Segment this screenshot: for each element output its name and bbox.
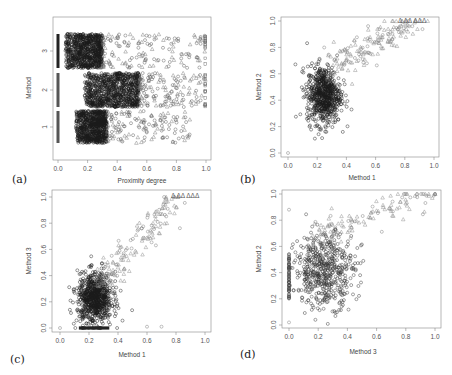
svg-text:3: 3	[41, 49, 48, 53]
svg-text:0.4: 0.4	[113, 165, 122, 172]
svg-text:0.4: 0.4	[113, 337, 122, 344]
svg-text:0.6: 0.6	[270, 242, 277, 251]
svg-text:0.8: 0.8	[401, 333, 410, 340]
svg-text:1.0: 1.0	[40, 192, 47, 201]
panel-d: 0.00.20.40.60.81.00.00.20.40.60.81.0 Met…	[240, 189, 441, 361]
panel-a-points	[57, 32, 208, 144]
svg-text:0.8: 0.8	[269, 43, 276, 52]
svg-text:0.4: 0.4	[343, 333, 352, 340]
svg-text:0.0: 0.0	[40, 323, 47, 332]
svg-text:0.0: 0.0	[283, 162, 292, 169]
svg-text:0.2: 0.2	[270, 294, 277, 303]
panel-a-tag: (a)	[12, 173, 27, 186]
svg-text:0.0: 0.0	[269, 148, 276, 157]
svg-text:0.6: 0.6	[371, 162, 380, 169]
panel-b-ylabel: Method 2	[255, 73, 262, 100]
panel-c-annotation: Δ ΔΔ ΔΔΔ	[171, 192, 200, 199]
svg-text:1.0: 1.0	[200, 337, 209, 344]
svg-text:0.6: 0.6	[40, 245, 47, 254]
svg-text:0.0: 0.0	[53, 165, 62, 172]
svg-text:1.0: 1.0	[430, 333, 439, 340]
svg-text:0.8: 0.8	[40, 218, 47, 227]
panel-b: 0.00.20.40.60.81.00.00.20.40.60.81.0 Δ Δ…	[240, 16, 439, 186]
svg-text:0.2: 0.2	[40, 297, 47, 306]
svg-text:1.0: 1.0	[429, 162, 438, 169]
svg-text:0.4: 0.4	[342, 162, 351, 169]
svg-text:0.6: 0.6	[269, 69, 276, 78]
svg-text:0.0: 0.0	[55, 337, 64, 344]
svg-text:0.2: 0.2	[84, 337, 93, 344]
svg-text:0.8: 0.8	[270, 215, 277, 224]
svg-text:1.0: 1.0	[270, 189, 277, 198]
panel-c: 0.00.20.40.60.81.00.00.20.40.60.81.0 Δ Δ…	[10, 190, 211, 366]
panel-b-frame	[281, 17, 439, 157]
svg-text:0.6: 0.6	[142, 165, 151, 172]
svg-text:0.4: 0.4	[269, 95, 276, 104]
svg-text:0.4: 0.4	[40, 271, 47, 280]
panel-d-ylabel: Method 2	[255, 245, 262, 272]
panel-d-frame	[282, 190, 441, 328]
panel-c-points	[59, 195, 187, 329]
svg-text:0.0: 0.0	[270, 320, 277, 329]
panel-a: 0.00.20.40.60.81.0123 Proximity degree M…	[12, 17, 211, 186]
svg-text:1: 1	[41, 125, 48, 129]
svg-text:0.2: 0.2	[313, 162, 322, 169]
svg-text:0.2: 0.2	[269, 122, 276, 131]
figure-canvas: 0.00.20.40.60.81.0123 Proximity degree M…	[0, 0, 452, 375]
panel-a-xlabel: Proximity degree	[118, 177, 167, 185]
svg-text:0.8: 0.8	[171, 337, 180, 344]
svg-text:0.2: 0.2	[83, 165, 92, 172]
panel-b-points	[287, 19, 430, 154]
panel-d-axes: 0.00.20.40.60.81.00.00.20.40.60.81.0	[270, 189, 440, 340]
panel-d-tag: (d)	[240, 348, 256, 361]
panel-c-tag: (c)	[10, 353, 25, 366]
panel-c-xlabel: Method 1	[118, 351, 145, 358]
svg-text:0.8: 0.8	[172, 165, 181, 172]
svg-text:0.2: 0.2	[314, 333, 323, 340]
svg-text:1.0: 1.0	[269, 16, 276, 25]
panel-b-tag: (b)	[240, 173, 256, 186]
svg-text:2: 2	[41, 88, 48, 92]
svg-text:0.6: 0.6	[142, 337, 151, 344]
panel-b-xlabel: Method 1	[348, 174, 375, 181]
panel-c-ylabel: Method 3	[25, 247, 32, 274]
svg-text:0.4: 0.4	[270, 268, 277, 277]
panel-b-annotation: Δ ΔΔ ΔΔΔ	[398, 17, 427, 24]
svg-text:1.0: 1.0	[201, 165, 210, 172]
panel-d-xlabel: Method 3	[349, 348, 376, 355]
svg-text:0.0: 0.0	[284, 333, 293, 340]
svg-text:0.8: 0.8	[400, 162, 409, 169]
panel-d-points	[288, 192, 437, 325]
panel-a-ylabel: Method	[25, 77, 32, 99]
svg-text:0.6: 0.6	[372, 333, 381, 340]
